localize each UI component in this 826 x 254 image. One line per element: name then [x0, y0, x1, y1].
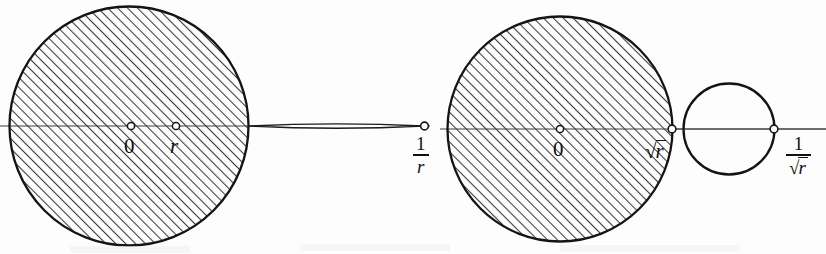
point-one-over-r-marker: [421, 122, 429, 130]
radical-sqrt-r: √r: [645, 140, 666, 162]
point-one-over-sqrt-r-marker: [770, 125, 778, 133]
left-panel: [0, 7, 430, 246]
degenerate-segment-lens: [249, 124, 424, 128]
point-zero-marker-right: [556, 125, 563, 132]
point-sqrt-r-marker: [668, 125, 676, 133]
label-one-over-r: 1 r: [413, 134, 429, 176]
label-zero-left: 0: [124, 136, 135, 157]
label-zero-right: 0: [553, 139, 564, 160]
right-panel: [440, 17, 826, 242]
label-sqrt-r: √r: [645, 140, 666, 162]
radical-sqrt-r-denominator: √r: [789, 157, 808, 177]
radical-radicand: r: [798, 157, 807, 177]
fraction-one-over-r: 1 r: [413, 134, 429, 176]
scan-artifact: [70, 246, 190, 253]
fraction-numerator: 1: [413, 134, 429, 154]
figure-canvas: [0, 0, 826, 254]
scan-artifact: [300, 244, 450, 251]
point-r-marker: [172, 122, 179, 129]
fraction-numerator: 1: [786, 134, 811, 154]
point-zero-marker-left: [127, 122, 134, 129]
radical-radicand: r: [656, 140, 666, 162]
label-one-over-sqrt-r: 1 √r: [786, 134, 811, 177]
label-r: r: [170, 136, 178, 157]
figure-root: 0 r 1 r 0 √r 1 √r: [0, 0, 826, 254]
scan-artifact: [560, 245, 740, 252]
fraction-one-over-sqrt-r: 1 √r: [786, 134, 811, 177]
fraction-denominator: √r: [786, 156, 811, 177]
fraction-denominator: r: [413, 156, 429, 176]
